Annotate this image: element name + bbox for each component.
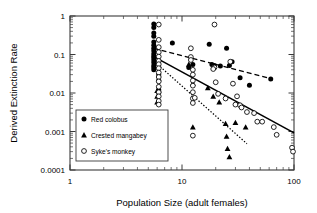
data-point xyxy=(151,25,156,30)
x-tick-label: 100 xyxy=(287,177,301,186)
data-point xyxy=(151,34,156,39)
data-point xyxy=(235,94,240,99)
y-tick-label: 0.01 xyxy=(49,89,65,98)
legend-marker-open-circle xyxy=(82,149,87,154)
y-tick-label: 0.001 xyxy=(45,128,66,137)
legend-marker-filled-circle xyxy=(82,117,87,122)
data-point xyxy=(211,67,216,72)
x-tick-label: 10 xyxy=(178,177,187,186)
data-point xyxy=(188,46,193,51)
data-point xyxy=(260,119,265,124)
data-point xyxy=(216,91,221,96)
data-point xyxy=(170,40,175,45)
data-point xyxy=(252,111,257,116)
y-tick-label: 0.0001 xyxy=(41,166,66,175)
data-point xyxy=(190,133,195,138)
data-point xyxy=(190,90,195,95)
data-point xyxy=(156,79,161,84)
data-point xyxy=(213,80,218,85)
data-point xyxy=(190,67,195,72)
data-point xyxy=(291,149,296,154)
data-point xyxy=(271,125,276,130)
data-point xyxy=(156,102,161,107)
legend-label: Red colobus xyxy=(91,116,128,123)
data-point xyxy=(233,102,238,107)
data-point xyxy=(156,45,161,50)
data-point xyxy=(156,22,161,27)
data-point xyxy=(190,78,195,83)
data-point xyxy=(218,64,223,69)
data-point xyxy=(245,110,250,115)
data-point xyxy=(231,81,236,86)
data-point xyxy=(192,95,197,100)
y-tick-label: 1 xyxy=(61,12,66,21)
data-point xyxy=(156,94,161,99)
x-tick-label: 1 xyxy=(68,177,73,186)
y-axis-title: Derived Extinction Rate xyxy=(8,43,19,142)
data-point xyxy=(224,46,229,51)
scatter-plot: 10.10.010.0010.0001 110100 Derived Extin… xyxy=(0,0,317,213)
legend-label: Crested mangabey xyxy=(91,132,147,140)
y-tick-label: 0.1 xyxy=(54,51,66,60)
data-point xyxy=(212,22,217,27)
data-point xyxy=(151,67,156,72)
data-point xyxy=(228,59,233,64)
data-point xyxy=(247,83,252,88)
data-point xyxy=(156,84,161,89)
data-point xyxy=(207,42,212,47)
data-point xyxy=(274,132,279,137)
legend: Red colobusCrested mangabeySyke's monkey xyxy=(76,110,168,161)
data-point xyxy=(239,105,244,110)
data-point xyxy=(190,83,195,88)
data-point xyxy=(255,119,260,124)
data-point xyxy=(190,72,195,77)
x-axis-title: Population Size (adult females) xyxy=(116,197,248,208)
data-point xyxy=(190,101,195,106)
data-point xyxy=(156,37,161,42)
data-point xyxy=(188,58,193,63)
data-point xyxy=(223,96,228,101)
legend-label: Syke's monkey xyxy=(91,148,136,156)
figure-container: 10.10.010.0010.0001 110100 Derived Extin… xyxy=(0,0,317,213)
data-point xyxy=(238,75,243,80)
data-point xyxy=(268,77,273,82)
